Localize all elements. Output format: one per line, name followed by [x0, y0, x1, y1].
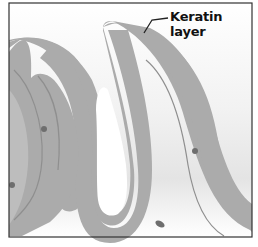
- cell-dot: [41, 126, 47, 132]
- keratin-layer-label: Keratin layer: [170, 9, 258, 39]
- cell-dot: [9, 182, 15, 188]
- cell-dot: [192, 148, 198, 154]
